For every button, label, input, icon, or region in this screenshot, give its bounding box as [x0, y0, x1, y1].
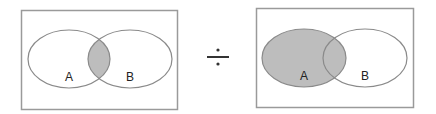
left-set-a-label: A	[65, 70, 73, 84]
right-set-a-label: A	[300, 69, 308, 83]
left-venn-panel: A B	[22, 11, 178, 110]
venn-equation-diagram: A B A B	[0, 0, 436, 114]
left-set-b-label: B	[126, 70, 134, 84]
right-set-b-label: B	[361, 69, 369, 83]
right-venn-panel: A B	[257, 9, 414, 108]
divide-icon	[207, 48, 229, 65]
